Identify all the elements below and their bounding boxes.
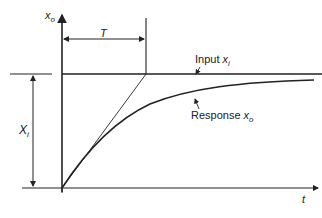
time-constant-label: T — [100, 28, 107, 39]
step-height-label: Xi — [19, 124, 29, 139]
step-response-diagram — [0, 0, 322, 218]
response-curve — [62, 80, 314, 188]
y-axis-label: xo — [45, 10, 55, 24]
input-label: Input xi — [195, 54, 230, 68]
response-label-pointer — [195, 99, 199, 109]
response-label: Response xo — [191, 110, 254, 124]
x-axis-label: t — [302, 194, 305, 205]
